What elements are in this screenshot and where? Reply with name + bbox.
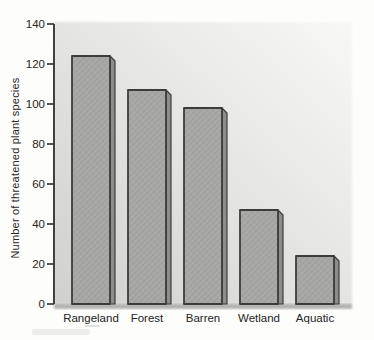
category-label: Aquatic: [296, 312, 335, 324]
y-tick-label: 140: [26, 18, 45, 30]
bar-chart-figure: 020406080100120140RangelandForestBarrenW…: [0, 0, 374, 340]
bar-aquatic: [296, 256, 339, 304]
chart-canvas: 020406080100120140RangelandForestBarrenW…: [0, 0, 374, 340]
category-label: Barren: [186, 312, 221, 324]
y-tick-label: 40: [32, 218, 45, 230]
bar-rangeland: [72, 56, 115, 304]
y-tick-label: 80: [32, 138, 45, 150]
bar-wetland: [240, 210, 283, 304]
category-label: Forest: [131, 312, 164, 324]
bar-texture: [241, 211, 277, 303]
bar-texture: [73, 57, 109, 303]
category-label: Wetland: [238, 312, 280, 324]
bar-forest: [128, 90, 171, 304]
y-axis-title: Number of threatened plant species: [9, 63, 23, 273]
bar-texture: [129, 91, 165, 303]
scan-artifact-bar: [32, 329, 90, 335]
y-tick-label: 100: [26, 98, 45, 110]
category-label: Rangeland: [63, 312, 119, 324]
y-tick-label: 60: [32, 178, 45, 190]
y-tick-label: 0: [39, 298, 45, 310]
bar-texture: [297, 257, 333, 303]
bar-barren: [184, 108, 227, 304]
y-tick-label: 20: [32, 258, 45, 270]
scan-artifact-speck: [84, 325, 100, 327]
bar-texture: [185, 109, 221, 303]
y-tick-label: 120: [26, 58, 45, 70]
